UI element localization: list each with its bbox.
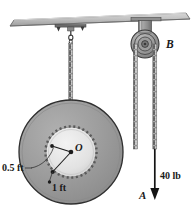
middle-chain: [133, 44, 137, 149]
ceiling-hook: [55, 25, 86, 44]
label-force-40lb: 40 lb: [160, 170, 181, 181]
label-inner-radius: 0.5 ft: [2, 162, 24, 173]
label-outer-radius: 1 ft: [52, 182, 67, 193]
label-pulley-b: B: [165, 38, 174, 50]
mechanics-figure: B O A 40 lb 0.5 ft 1 ft: [0, 0, 193, 216]
force-arrow-down: [150, 149, 159, 200]
ceiling-beam: [10, 13, 190, 26]
label-center-o: O: [75, 142, 83, 153]
right-chain: [153, 44, 157, 149]
label-point-a: A: [138, 189, 146, 201]
